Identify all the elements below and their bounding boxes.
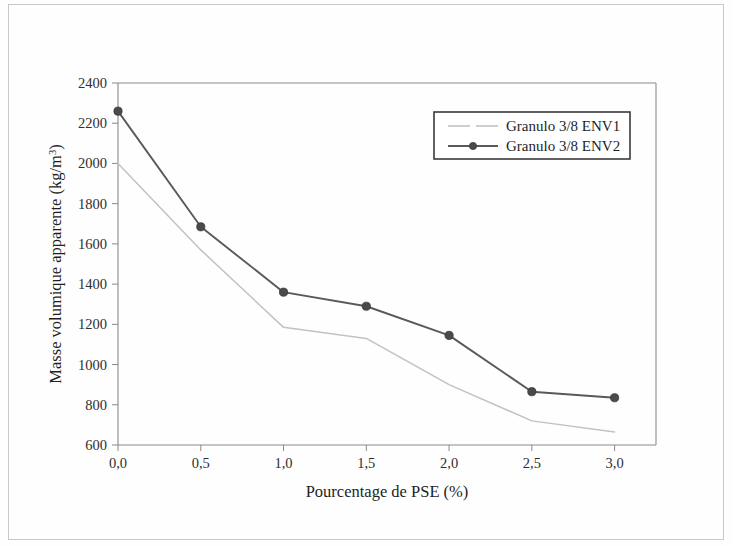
legend-label-env2: Granulo 3/8 ENV2 [506,138,620,154]
figure-container: 60080010001200140016001800200022002400 0… [0,0,732,547]
x-tick-label: 2,0 [440,455,458,471]
y-axis-title-main: Masse volumique apparente (kg/m [46,155,65,384]
y-axis-title-group: Masse volumique apparente (kg/m3) [46,144,65,383]
scanned-page: 60080010001200140016001800200022002400 0… [0,0,732,547]
y-tick-label: 800 [85,397,107,413]
y-tick-label: 600 [85,437,107,453]
x-tick-group: 0,00,51,01,52,02,53,0 [109,445,624,471]
x-tick-label: 0,5 [192,455,210,471]
legend-label-env1: Granulo 3/8 ENV1 [506,118,620,134]
y-tick-label: 1400 [78,276,107,292]
y-axis-title: Masse volumique apparente (kg/m3) [46,144,65,383]
y-tick-label: 1200 [78,316,107,332]
x-tick-label: 2,5 [523,455,541,471]
data-point-marker [445,331,453,339]
legend: Granulo 3/8 ENV1 Granulo 3/8 ENV2 [434,112,630,159]
data-point-marker [362,302,370,310]
x-tick-label: 3,0 [606,455,624,471]
legend-marker-env2 [469,142,476,149]
data-point-marker [114,107,122,115]
x-axis-title: Pourcentage de PSE (%) [306,482,469,501]
x-tick-label: 1,5 [357,455,375,471]
y-tick-label: 1600 [78,236,107,252]
y-tick-label: 1000 [78,357,107,373]
data-point-marker [611,394,619,402]
y-tick-label: 2400 [78,75,107,91]
y-tick-label: 2200 [78,115,107,131]
data-point-marker [528,388,536,396]
y-tick-group: 60080010001200140016001800200022002400 [78,75,118,453]
y-axis-title-tail: ) [46,144,65,150]
y-tick-label: 1800 [78,196,107,212]
line-chart: 60080010001200140016001800200022002400 0… [0,0,732,547]
x-tick-label: 1,0 [274,455,292,471]
x-tick-label: 0,0 [109,455,127,471]
data-point-marker [197,223,205,231]
y-tick-label: 2000 [78,155,107,171]
data-point-marker [279,288,287,296]
